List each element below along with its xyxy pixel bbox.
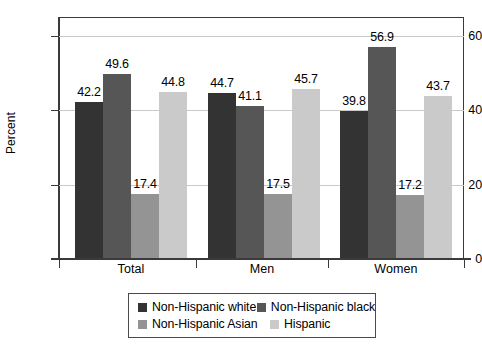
- x-axis-line: [51, 258, 471, 260]
- bar: [340, 111, 368, 259]
- x-axis-separator-2: [328, 259, 329, 268]
- bar-value-label: 41.1: [228, 89, 272, 103]
- bar: [159, 92, 187, 259]
- plot-area: 42.249.617.444.844.741.117.545.739.856.9…: [59, 17, 464, 259]
- legend-label: Hispanic: [284, 318, 330, 331]
- bar: [396, 195, 424, 259]
- x-axis-separator-3: [464, 259, 465, 268]
- legend-entry-non-hispanic-black: Non-Hispanic black: [257, 301, 375, 314]
- legend-swatch-icon: [257, 303, 266, 312]
- legend-entry-non-hispanic-asian: Non-Hispanic Asian: [138, 318, 270, 331]
- legend-entry-non-hispanic-white: Non-Hispanic white: [138, 301, 257, 314]
- legend-swatch-icon: [138, 303, 147, 312]
- bar-value-label: 44.8: [151, 75, 195, 89]
- legend-row: Non-Hispanic white Non-Hispanic black: [129, 299, 375, 316]
- bar: [368, 47, 396, 259]
- bar: [131, 194, 159, 259]
- legend-swatch-icon: [138, 320, 147, 329]
- legend: Non-Hispanic white Non-Hispanic black No…: [128, 293, 376, 338]
- bar: [292, 89, 320, 259]
- bar-value-label: 56.9: [360, 30, 404, 44]
- bar-value-label: 45.7: [284, 72, 328, 86]
- x-axis-separator-1: [196, 259, 197, 268]
- legend-entry-hispanic: Hispanic: [270, 318, 330, 331]
- x-axis-group-label-total: Total: [86, 262, 176, 276]
- bar: [264, 194, 292, 259]
- legend-swatch-icon: [270, 320, 279, 329]
- x-axis-group-label-men: Men: [217, 262, 307, 276]
- bar: [424, 96, 452, 259]
- bar: [103, 74, 131, 259]
- legend-label: Non-Hispanic white: [152, 301, 256, 314]
- bar-chart: Percent 0204060 42.249.617.444.844.741.1…: [0, 0, 482, 354]
- bar-value-label: 49.6: [95, 57, 139, 71]
- bar-value-label: 44.7: [200, 76, 244, 90]
- legend-row: Non-Hispanic Asian Hispanic: [129, 316, 375, 333]
- legend-label: Non-Hispanic black: [271, 301, 375, 314]
- y-axis-title: Percent: [4, 83, 18, 183]
- x-axis-separator-0: [59, 259, 60, 268]
- bar: [75, 102, 103, 259]
- bar: [208, 93, 236, 259]
- legend-label: Non-Hispanic Asian: [152, 318, 258, 331]
- bar-value-label: 43.7: [416, 79, 460, 93]
- x-axis-group-label-women: Women: [351, 262, 441, 276]
